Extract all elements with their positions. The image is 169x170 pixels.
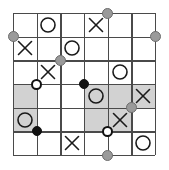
grid-line-vertical	[131, 13, 132, 155]
gray-node[interactable]	[102, 8, 113, 19]
grid-line-horizontal	[13, 155, 155, 156]
circle-mark[interactable]	[108, 60, 132, 84]
gray-node[interactable]	[55, 55, 66, 66]
white-node[interactable]	[102, 126, 113, 137]
circle-mark[interactable]	[131, 131, 155, 155]
puzzle-canvas	[0, 0, 169, 170]
circle-mark[interactable]	[37, 13, 61, 37]
gray-node[interactable]	[126, 102, 137, 113]
white-node[interactable]	[31, 79, 42, 90]
puzzle-grid[interactable]	[13, 13, 155, 155]
gray-node[interactable]	[8, 31, 19, 42]
grid-line-vertical	[60, 13, 61, 155]
gray-node[interactable]	[102, 150, 113, 161]
black-node[interactable]	[32, 126, 42, 136]
cross-mark[interactable]	[60, 131, 84, 155]
gray-node[interactable]	[150, 31, 161, 42]
black-node[interactable]	[79, 79, 89, 89]
shaded-cell[interactable]	[84, 84, 108, 108]
